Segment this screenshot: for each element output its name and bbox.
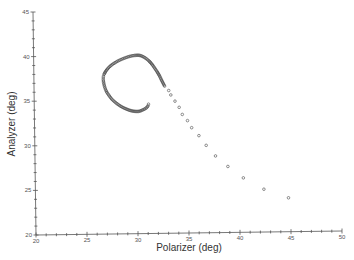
data-point	[287, 197, 290, 200]
data-point	[167, 89, 170, 92]
y-tick-label: 40	[23, 54, 30, 60]
data-point	[205, 144, 208, 147]
x-tick-label: 45	[288, 235, 295, 241]
y-axis-line	[33, 12, 36, 235]
data-point	[214, 155, 217, 158]
x-tick-label: 50	[339, 234, 346, 240]
data-point	[178, 106, 181, 109]
data-point	[198, 134, 201, 137]
data-point	[186, 119, 189, 122]
y-tick-label: 30	[24, 143, 31, 149]
x-tick-label: 20	[33, 238, 40, 244]
data-point	[174, 100, 177, 103]
data-point	[227, 165, 230, 168]
data-point	[242, 177, 245, 180]
data-point	[263, 188, 266, 191]
data-point	[170, 94, 173, 97]
y-tick-label: 20	[25, 232, 32, 238]
x-tick-label: 25	[84, 237, 91, 243]
y-tick-label: 45	[22, 9, 29, 15]
y-tick-label: 35	[24, 98, 31, 104]
data-point	[190, 126, 193, 129]
x-tick-label: 30	[135, 237, 142, 243]
axes: 20253035404550202530354045	[22, 9, 346, 244]
data-point	[181, 113, 184, 116]
y-tick-label: 25	[25, 187, 32, 193]
y-axis-title: Analyzer (deg)	[6, 91, 17, 156]
x-axis-title: Polarizer (deg)	[156, 242, 222, 253]
data-points	[102, 54, 290, 199]
x-tick-label: 40	[237, 235, 244, 241]
scatter-chart: 20253035404550202530354045 Polarizer (de…	[0, 0, 354, 260]
